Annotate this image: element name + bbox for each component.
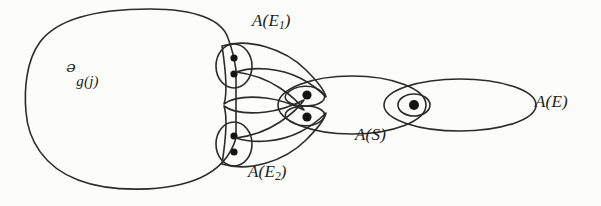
label-a-e1: A(E1) (252, 12, 291, 32)
label-a-e2-base: A(E (248, 162, 275, 181)
upper-two-dot-oval-outline (216, 44, 252, 88)
a-e2-crescent-outline (222, 100, 326, 167)
label-universe-subscript: g(j) (76, 73, 98, 89)
label-a-e1-close: ) (285, 11, 291, 30)
a-e-ellipse-outline (384, 79, 536, 131)
label-universe-base: ᵊ (66, 56, 76, 86)
label-universe: ᵊg(j) (66, 58, 99, 89)
a-e1-crescent-outline (222, 43, 326, 110)
label-a-s: A(S) (355, 126, 386, 143)
label-a-e: A(E) (535, 93, 568, 110)
dot-lower-oval-bottom (230, 148, 237, 155)
label-a-e2: A(E2) (248, 163, 287, 183)
diagram-canvas (0, 0, 601, 206)
dot-upper-oval-top (230, 54, 237, 61)
dot-upper-lens (302, 90, 311, 99)
label-a-e2-close: ) (281, 162, 287, 181)
figure-container: ᵊg(j) A(E1) A(E2) A(S) A(E) (0, 0, 601, 206)
dot-lower-lens (302, 112, 311, 121)
label-a-e1-base: A(E (252, 11, 279, 30)
dot-middle-lens (409, 100, 419, 110)
universe-blob-outline (25, 9, 236, 189)
